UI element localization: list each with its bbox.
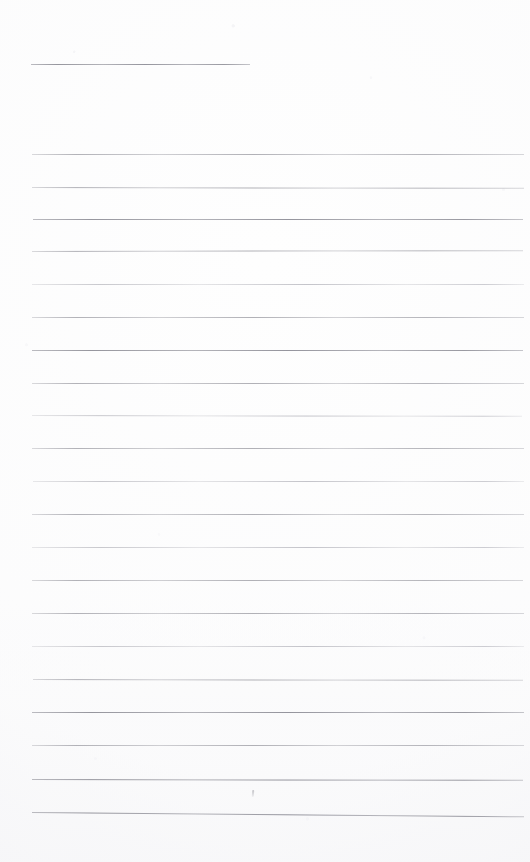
ruled-line — [32, 812, 524, 817]
ruled-line — [32, 383, 524, 384]
ruled-line — [32, 745, 524, 746]
ruled-line — [32, 250, 523, 252]
ruled-line — [32, 448, 524, 449]
paper-speckle-overlay — [0, 0, 530, 862]
ruled-line — [32, 646, 524, 647]
ruled-line — [32, 779, 523, 781]
ruled-line — [33, 219, 523, 220]
ruled-line — [32, 284, 524, 285]
pen-dot — [252, 790, 254, 797]
ruled-line — [33, 679, 523, 681]
ruled-line — [32, 415, 522, 417]
heading-underline — [31, 64, 250, 65]
ruled-line — [32, 613, 524, 614]
ruled-line — [32, 154, 524, 155]
ruled-line — [32, 317, 524, 318]
ruled-line — [32, 580, 523, 581]
ruled-line — [33, 481, 524, 482]
ruled-line — [32, 514, 524, 515]
ruled-line — [32, 547, 524, 548]
ruled-line — [32, 350, 523, 351]
ruled-line — [32, 712, 524, 713]
scanned-page — [0, 0, 530, 862]
paper-texture-overlay — [0, 0, 530, 862]
ruled-line — [32, 187, 524, 189]
